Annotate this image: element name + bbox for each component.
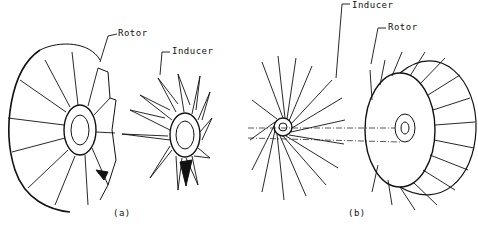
label-inducer-b: Inducer [352, 0, 393, 10]
panel-a-inducer-drawing [122, 74, 212, 190]
caption-b: (b) [348, 208, 366, 218]
caption-a: (a) [113, 208, 131, 218]
panel-a-rotor-drawing [8, 44, 116, 212]
leader-line-rotor-a [100, 34, 117, 62]
label-rotor-a: Rotor [118, 28, 148, 38]
diagram-canvas [0, 0, 478, 228]
label-inducer-a: Inducer [172, 46, 213, 56]
leader-line-inducer-a [160, 52, 170, 75]
leader-line-rotor-b [371, 28, 386, 64]
panel-b-inducer-drawing [248, 56, 400, 200]
panel-b-rotor-drawing [365, 52, 476, 210]
leader-line-inducer-b [336, 4, 350, 78]
label-rotor-b: Rotor [388, 22, 418, 32]
